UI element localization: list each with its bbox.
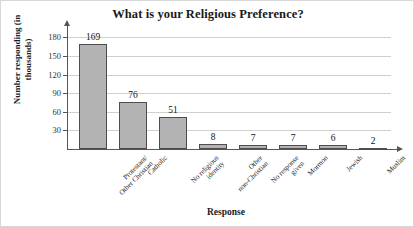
- bar: [279, 145, 307, 149]
- chart-title: What is your Religious Preference?: [1, 7, 414, 22]
- bar-value-label: 76: [107, 90, 159, 100]
- x-axis-category-label: No responsegiven: [269, 154, 306, 191]
- bar: [319, 145, 347, 149]
- x-axis-category-label: Mormon: [306, 154, 329, 177]
- y-axis-tick-label: 150: [35, 52, 61, 61]
- y-axis-title-line-1: Number responding: [12, 27, 22, 104]
- x-axis-category-label: No religiousidentity: [189, 154, 226, 191]
- x-axis-category-line: Mormon: [306, 154, 329, 177]
- x-axis-category-line: Jewish: [345, 154, 365, 174]
- bar: [159, 117, 187, 149]
- plot-area: [68, 28, 391, 149]
- y-axis-title: Number responding (in thousands): [12, 1, 33, 119]
- x-axis-title: Response: [151, 207, 301, 217]
- y-axis-tick-label: 30: [35, 126, 61, 135]
- x-axis-category-label: Othernon-Christian: [231, 154, 270, 193]
- bar-value-label: 51: [147, 105, 199, 115]
- gridline: [68, 75, 391, 76]
- y-axis-tick-labels: 306090120150180: [35, 1, 61, 227]
- bar-chart-figure: What is your Religious Preference? Numbe…: [0, 0, 414, 227]
- y-axis-tick-label: 60: [35, 108, 61, 117]
- bar-value-label: 2: [347, 136, 399, 146]
- bar: [79, 44, 107, 149]
- gridline: [68, 112, 391, 113]
- x-axis-category-label: Muslim: [386, 154, 407, 175]
- x-axis-category-label: Protestant/Other Christian: [112, 154, 155, 197]
- y-axis-tick-label: 180: [35, 33, 61, 42]
- y-axis-tick-label: 90: [35, 89, 61, 98]
- x-axis-arrow-icon: [397, 146, 403, 152]
- x-axis-category-line: Muslim: [386, 154, 407, 175]
- bar: [199, 144, 227, 149]
- y-axis-tick-label: 120: [35, 71, 61, 80]
- gridline: [68, 56, 391, 57]
- x-axis-category-label: Jewish: [345, 154, 365, 174]
- bar: [239, 145, 267, 149]
- bar: [119, 102, 147, 149]
- bar-value-label: 169: [67, 32, 119, 42]
- bar: [359, 148, 387, 150]
- x-axis-line: [67, 149, 397, 150]
